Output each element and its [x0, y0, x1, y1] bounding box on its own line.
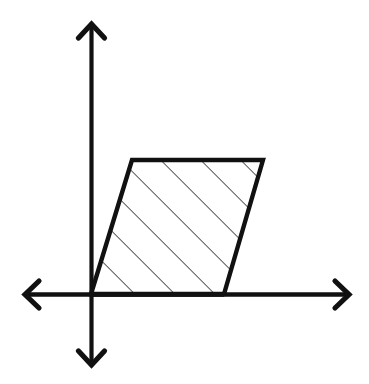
figure-root — [0, 0, 369, 384]
parallelogram-diagram — [0, 0, 369, 384]
